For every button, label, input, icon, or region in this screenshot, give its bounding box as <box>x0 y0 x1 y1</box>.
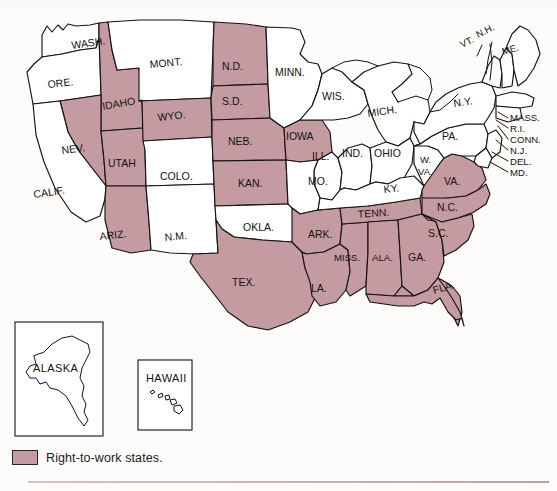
label-kentucky: KY. <box>383 181 400 195</box>
map-legend: Right-to-work states. <box>12 450 163 465</box>
label-georgia: GA. <box>408 251 426 263</box>
state-north-dakota[interactable] <box>213 22 268 86</box>
label-connecticut: CONN. <box>510 134 541 145</box>
label-south-carolina: S.C. <box>428 227 448 239</box>
label-west-virginia-line2: VA. <box>418 166 433 177</box>
label-new-mexico: N.M. <box>164 229 187 243</box>
label-minnesota: MINN. <box>275 66 305 78</box>
state-missouri[interactable] <box>286 160 320 214</box>
right-to-work-map-figure: .s { fill:#c59ba2; stroke:#17120f; strok… <box>0 0 557 491</box>
label-north-carolina: N.C. <box>437 201 458 213</box>
label-texas: TEX. <box>232 276 255 288</box>
label-virginia: VA. <box>444 175 460 187</box>
hawaii-inset-frame <box>138 360 192 430</box>
label-illinois: ILL. <box>312 150 330 162</box>
alaska-inset-frame <box>15 322 103 436</box>
alaska-inset-label: ALASKA <box>33 362 78 374</box>
label-california: CALIF. <box>33 184 66 200</box>
label-massachusetts: MASS. <box>510 112 540 123</box>
label-west-virginia-line1: W. <box>420 154 431 165</box>
label-alabama: ALA. <box>372 252 393 263</box>
label-rhode-island: R.I. <box>510 123 525 134</box>
label-vermont: VT. <box>458 34 475 50</box>
label-pennsylvania: PA. <box>442 130 458 142</box>
label-louisiana: LA. <box>311 282 327 294</box>
label-utah: UTAH <box>108 157 136 169</box>
alaska-inset[interactable]: ALASKA <box>15 322 103 436</box>
label-maryland: MD. <box>510 167 528 178</box>
label-indiana: IND. <box>342 147 363 159</box>
label-ohio: OHIO <box>374 147 401 159</box>
legend-swatch-right-to-work <box>12 450 38 465</box>
label-tennessee: TENN. <box>357 206 389 220</box>
label-missouri: MO. <box>308 175 328 187</box>
legend-label: Right-to-work states. <box>46 451 163 465</box>
label-south-dakota: S.D. <box>222 95 242 107</box>
state-massachusetts[interactable] <box>496 92 534 108</box>
hawaii-inset-label: HAWAII <box>146 372 187 384</box>
label-mississippi: MISS. <box>334 252 360 263</box>
label-new-jersey: N.J. <box>510 145 527 156</box>
hawaii-inset[interactable]: HAWAII <box>138 360 192 430</box>
label-arkansas: ARK. <box>308 228 333 240</box>
label-nebraska: NEB. <box>228 135 253 147</box>
bottom-divider-rule <box>28 481 549 483</box>
label-delaware: DEL. <box>510 156 531 167</box>
label-north-dakota: N.D. <box>222 60 243 72</box>
state-arizona[interactable] <box>105 186 151 253</box>
us-map-svg: .s { fill:#c59ba2; stroke:#17120f; strok… <box>0 0 557 491</box>
label-oklahoma: OKLA. <box>243 221 274 233</box>
label-kansas: KAN. <box>238 177 263 189</box>
label-iowa: IOWA <box>286 130 314 142</box>
state-new-mexico[interactable] <box>146 184 218 254</box>
label-colorado: COLO. <box>160 170 193 182</box>
label-wisconsin: WIS. <box>322 90 345 102</box>
label-new-hampshire: N.H. <box>474 21 496 39</box>
